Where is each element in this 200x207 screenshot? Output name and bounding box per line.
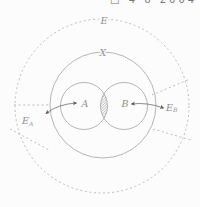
set-diagram-canvas: E X A B EA EB bbox=[0, 0, 200, 207]
ext-b-label: EB bbox=[165, 102, 178, 114]
ext-a-label-base: E bbox=[21, 115, 29, 126]
ext-b-label-sub: B bbox=[172, 106, 178, 113]
ext-a-label-sub: A bbox=[28, 120, 34, 127]
ext-b-label-base: E bbox=[165, 102, 173, 113]
sector-line-right-lower bbox=[153, 129, 191, 140]
set-b-label: B bbox=[121, 98, 129, 109]
sample-space-label-x: X bbox=[99, 47, 108, 58]
intersection-region-hatched bbox=[101, 94, 108, 119]
ext-a-label: EA bbox=[21, 115, 34, 127]
set-a-label: A bbox=[81, 98, 89, 109]
sector-line-left-lower bbox=[10, 129, 49, 150]
universe-label-e: E bbox=[100, 15, 108, 26]
sector-line-right-upper bbox=[152, 79, 190, 95]
